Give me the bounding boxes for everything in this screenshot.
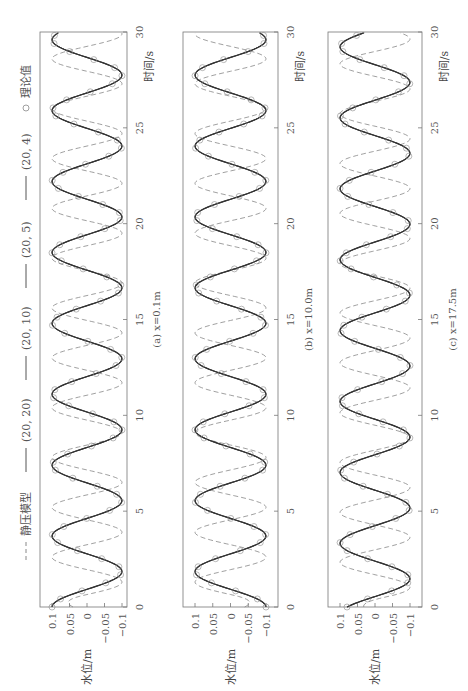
- level-tick-label: 0.1: [190, 613, 201, 629]
- panel-caption: (b) x=10.0m: [303, 287, 314, 351]
- level-tick-label: 0.1: [335, 613, 346, 629]
- time-tick-label: 15: [429, 313, 440, 326]
- legend-circle-marker-icon: [23, 105, 29, 111]
- level-axis-label: 水位/m: [224, 648, 238, 685]
- level-tick-label: 0: [82, 613, 93, 619]
- legend-label-20-10: (20, 10): [20, 306, 33, 350]
- nonhydrostatic-series--20-5-: [340, 33, 410, 607]
- time-axis-label: 时间/s: [438, 50, 451, 82]
- level-tick-label: −0.1: [405, 613, 416, 637]
- time-tick-label: 10: [429, 409, 440, 422]
- panel-caption: (a) x=0.1m: [151, 291, 162, 348]
- time-tick-label: 5: [134, 508, 145, 514]
- level-tick-label: 0: [226, 613, 237, 619]
- panel-c: 051015202530时间/s0.10.050−0.05−0.1水位/m(c)…: [328, 26, 458, 685]
- time-tick-label: 25: [134, 121, 145, 134]
- time-tick-label: 15: [134, 313, 145, 326]
- time-tick-label: 10: [285, 409, 296, 422]
- level-axis-label: 水位/m: [80, 648, 94, 685]
- time-tick-label: 30: [134, 26, 145, 39]
- legend-label-20-5: (20, 5): [20, 221, 33, 258]
- level-tick-label: −0.05: [388, 613, 399, 644]
- legend-label-theory: 理论值: [19, 65, 33, 98]
- nonhydrostatic-series--20-10-: [340, 33, 410, 607]
- hydrostatic-series: [340, 33, 410, 607]
- level-tick-label: 0.05: [353, 613, 364, 635]
- level-tick-label: 0.1: [47, 613, 58, 629]
- time-tick-label: 20: [134, 217, 145, 230]
- time-tick-label: 30: [285, 26, 296, 39]
- level-tick-label: 0.05: [65, 613, 76, 635]
- figure: 静压模型 (20, 20) (20, 10) (20, 5) (20, 4) 理…: [0, 0, 468, 691]
- nonhydrostatic-series--20-4-: [340, 33, 409, 607]
- panel-b: 051015202530时间/s0.10.050−0.05−0.1水位/m(b)…: [183, 26, 314, 685]
- legend-label-20-20: (20, 20): [20, 398, 33, 442]
- level-tick-label: −0.05: [100, 613, 111, 644]
- level-axis-label: 水位/m: [368, 648, 382, 685]
- time-tick-label: 20: [285, 217, 296, 230]
- time-tick-label: 5: [429, 508, 440, 514]
- level-tick-label: −0.1: [117, 613, 128, 637]
- time-tick-label: 15: [285, 313, 296, 326]
- time-tick-label: 30: [429, 26, 440, 39]
- time-tick-label: 0: [134, 604, 145, 610]
- level-tick-label: −0.05: [243, 613, 254, 644]
- time-tick-label: 5: [285, 508, 296, 514]
- time-tick-label: 20: [429, 217, 440, 230]
- time-tick-label: 0: [285, 604, 296, 610]
- time-axis-label: 时间/s: [143, 50, 156, 82]
- panel-caption: (c) x=17.5m: [447, 288, 458, 351]
- time-tick-label: 25: [429, 121, 440, 134]
- level-tick-label: −0.1: [261, 613, 272, 637]
- time-axis-label: 时间/s: [294, 50, 307, 82]
- legend: 静压模型 (20, 20) (20, 10) (20, 5) (20, 4) 理…: [19, 65, 33, 560]
- level-tick-label: 0: [370, 613, 381, 619]
- nonhydrostatic-series--20-20-: [340, 33, 410, 607]
- time-tick-label: 10: [134, 409, 145, 422]
- legend-label-hydrostatic: 静压模型: [19, 492, 33, 536]
- level-tick-label: 0.05: [208, 613, 219, 635]
- panel-a: 051015202530时间/s0.10.050−0.05−0.1水位/m(a)…: [40, 26, 162, 685]
- time-tick-label: 0: [429, 604, 440, 610]
- time-tick-label: 25: [285, 121, 296, 134]
- legend-label-20-4: (20, 4): [20, 133, 33, 170]
